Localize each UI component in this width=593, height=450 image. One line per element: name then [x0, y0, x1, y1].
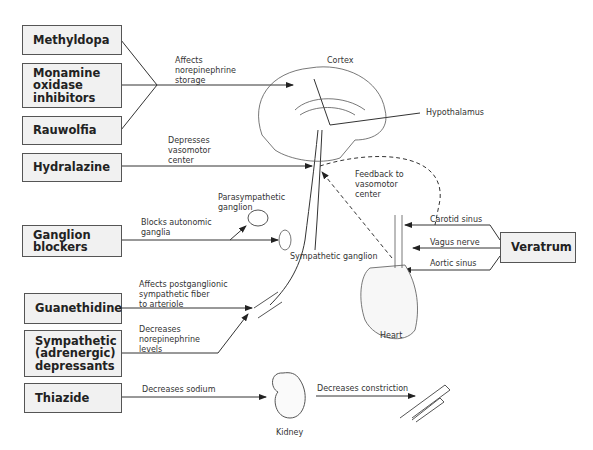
vasomotor-label: Depresses vasomotor center — [168, 136, 211, 166]
carotid-sinus-label: Carotid sinus — [430, 215, 482, 225]
thiazide-box: Thiazide — [24, 383, 122, 413]
heart-illustration — [361, 215, 418, 339]
brain-illustration — [259, 67, 386, 161]
feedback-label: Feedback to vasomotor center — [355, 170, 404, 200]
sodium-label: Decreases sodium — [142, 385, 215, 395]
guanethidine-box: Guanethidine — [24, 293, 122, 324]
methyldopa-box: Methyldopa — [22, 25, 122, 55]
veratrum-box: Veratrum — [500, 232, 576, 263]
cortex-label: Cortex — [327, 56, 353, 66]
rauwolfia-box: Rauwolfia — [22, 116, 122, 145]
sympathetic-depressants-box: Sympathetic (adrenergic) depressants — [24, 330, 122, 377]
postganglionic-label: Affects postganglionic sympathetic fiber… — [139, 280, 228, 310]
hydralazine-box: Hydralazine — [22, 153, 122, 182]
hypothalamus-label: Hypothalamus — [426, 108, 484, 118]
autonomic-label: Blocks autonomic ganglia — [141, 218, 212, 238]
ne-levels-label: Decreases norepinephrine levels — [139, 325, 200, 355]
kidney-label: Kidney — [276, 428, 303, 438]
vagus-nerve-label: Vagus nerve — [430, 238, 480, 248]
heart-label: Heart — [380, 331, 402, 341]
sympathetic-ganglion-label: Sympathetic ganglion — [290, 252, 378, 262]
parasympathetic-ganglion-label: Parasympathetic ganglion — [218, 193, 285, 213]
storage-label: Affects norepinephrine storage — [175, 56, 236, 86]
ganglion-blockers-box: Ganglion blockers — [22, 225, 122, 257]
aortic-sinus-label: Aortic sinus — [430, 259, 477, 269]
constriction-label: Decreases constriction — [317, 384, 408, 394]
mao-inhibitors-box: Monamine oxidase inhibitors — [22, 63, 122, 108]
